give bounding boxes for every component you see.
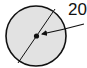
center-point — [34, 33, 39, 38]
callout-label: 20 — [68, 1, 87, 18]
